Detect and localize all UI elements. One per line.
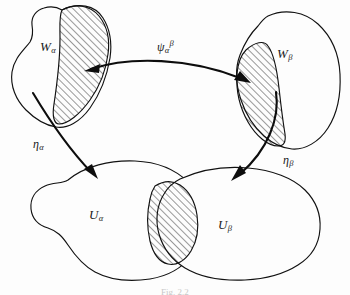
label-base-U-beta: U — [218, 217, 227, 232]
label-base-W-alpha: W — [40, 39, 51, 54]
label-sub-W-alpha: α — [51, 45, 55, 55]
label-sub-eta-beta: β — [289, 158, 293, 168]
figure-container: Wα Wβ Uα Uβ ψαβ ηα ηβ Fig. 2.2 — [0, 0, 350, 295]
label-set-W-alpha: Wα — [40, 38, 56, 55]
label-sup-psi: β — [170, 38, 174, 48]
label-map-psi-alpha-beta: ψαβ — [157, 38, 174, 55]
label-base-U-alpha: U — [89, 207, 98, 222]
label-sub-W-beta: β — [288, 52, 292, 62]
label-base-psi: ψ — [157, 40, 164, 54]
label-sub-psi: α — [165, 45, 169, 55]
label-base-W-beta: W — [277, 46, 288, 61]
label-sub-U-beta: β — [228, 223, 232, 233]
label-map-eta-alpha: ηα — [33, 135, 44, 152]
label-sub-U-alpha: α — [99, 213, 103, 223]
label-sub-eta-alpha: α — [39, 142, 43, 152]
figure-caption: Fig. 2.2 — [0, 287, 350, 295]
label-set-U-alpha: Uα — [89, 206, 103, 223]
label-set-U-beta: Uβ — [218, 216, 232, 233]
label-map-eta-beta: ηβ — [283, 151, 293, 168]
label-set-W-beta: Wβ — [277, 45, 292, 62]
arrow-psi-alpha-beta — [91, 61, 240, 78]
